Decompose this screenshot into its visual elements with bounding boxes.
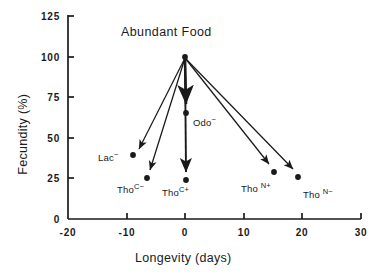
point-label-odo: Odo− xyxy=(193,116,216,128)
point-label-tho-c-minus: ThoC− xyxy=(117,183,144,195)
point-label-lac-text: Lac xyxy=(98,152,114,163)
point-label-lac: Lac− xyxy=(98,151,118,163)
x-tick-0: 0 xyxy=(163,228,207,238)
x-tick-30: 30 xyxy=(339,228,383,238)
point-label-tho-n-plus-text: Tho xyxy=(241,183,258,194)
x-tick-20: 20 xyxy=(280,228,324,238)
y-tick-0: 0 xyxy=(26,215,60,225)
data-point-odo xyxy=(183,110,189,116)
transition-arrows xyxy=(139,58,293,172)
point-label-tho-c-minus-sup: C− xyxy=(134,182,144,191)
point-label-odo-text: Odo xyxy=(193,117,212,128)
figure-panel: Abundant Food Fecundity (%) Longevity (d… xyxy=(0,0,386,278)
arrow-to-tho-n-minus xyxy=(185,58,293,169)
point-label-tho-n-plus-sup: N+ xyxy=(261,181,271,190)
arrow-to-tho-c-minus xyxy=(150,58,185,170)
data-point-lac xyxy=(130,152,136,158)
data-point-tho-n-minus xyxy=(295,174,301,180)
data-point-tho-n-plus xyxy=(271,169,277,175)
point-label-tho-n-minus-sup: N− xyxy=(323,187,333,196)
chart-title: Abundant Food xyxy=(121,26,212,39)
point-label-tho-c-plus: ThoC+ xyxy=(162,186,189,198)
data-point-origin xyxy=(182,54,188,60)
y-tick-125: 125 xyxy=(26,12,60,22)
y-tick-100: 100 xyxy=(26,53,60,63)
arrow-to-odo xyxy=(185,58,186,104)
y-axis xyxy=(68,15,74,219)
point-label-tho-c-plus-sup: C+ xyxy=(179,185,189,194)
arrow-to-lac xyxy=(139,58,185,149)
y-tick-75: 75 xyxy=(26,93,60,103)
data-point-tho-c-plus xyxy=(183,177,189,183)
data-point-tho-c-minus xyxy=(144,175,150,181)
x-axis xyxy=(68,213,361,219)
arrow-to-tho-n-plus xyxy=(185,58,269,164)
point-label-odo-sup: − xyxy=(212,115,216,124)
x-tick-minus20: -20 xyxy=(46,228,90,238)
x-axis-label: Longevity (days) xyxy=(135,252,232,265)
point-label-tho-c-plus-text: Tho xyxy=(162,187,179,198)
x-tick-minus10: -10 xyxy=(105,228,149,238)
point-label-tho-c-minus-text: Tho xyxy=(117,184,134,195)
point-label-tho-n-plus: Tho N+ xyxy=(241,182,271,194)
x-tick-10: 10 xyxy=(222,228,266,238)
point-label-tho-n-minus: Tho N− xyxy=(303,188,333,200)
y-tick-50: 50 xyxy=(26,134,60,144)
point-label-tho-n-minus-text: Tho xyxy=(303,189,320,200)
y-tick-25: 25 xyxy=(26,174,60,184)
point-label-lac-sup: − xyxy=(114,150,118,159)
